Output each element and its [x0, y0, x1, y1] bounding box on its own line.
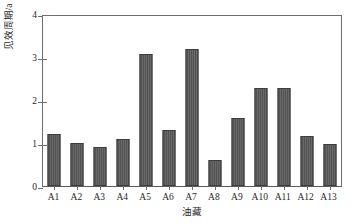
bar-slot [295, 16, 318, 186]
y-tick-label: 0 [32, 183, 37, 193]
bar [254, 88, 267, 186]
x-tick-label: A13 [320, 192, 336, 202]
x-tick-mark [54, 186, 55, 190]
x-tick-mark [261, 186, 262, 190]
bar-slot [112, 16, 135, 186]
x-tick-mark [100, 186, 101, 190]
x-tick-label: A6 [162, 192, 174, 202]
bar [163, 130, 176, 186]
x-tick-mark [77, 186, 78, 190]
bar-slot [272, 16, 295, 186]
bar-slot [203, 16, 226, 186]
bar [71, 143, 84, 186]
bar-slot [226, 16, 249, 186]
x-tick-mark [192, 186, 193, 190]
bar [300, 136, 313, 186]
x-tick-label: A4 [116, 192, 128, 202]
bar-slot [249, 16, 272, 186]
plot-area: 01234 [42, 15, 342, 187]
bar-slot [135, 16, 158, 186]
bars-layer [43, 16, 341, 186]
y-axis-title: 见效周期/a [2, 0, 16, 72]
bar [140, 54, 153, 186]
x-tick-label: A7 [185, 192, 197, 202]
bar [231, 118, 244, 186]
x-tick-label: A2 [71, 192, 83, 202]
bar-slot [89, 16, 112, 186]
bar-slot [181, 16, 204, 186]
bar-chart-figure: 见效周期/a 01234 A1A2A3A4A5A6A7A8A9A10A11A12… [0, 0, 355, 224]
y-tick-label: 4 [32, 11, 37, 21]
y-tick-label: 1 [32, 140, 37, 150]
x-tick-label: A8 [208, 192, 220, 202]
x-tick-mark [169, 186, 170, 190]
x-tick-label: A11 [275, 192, 291, 202]
bar [48, 134, 61, 186]
bar [277, 88, 290, 186]
x-tick-mark [284, 186, 285, 190]
bar-slot [158, 16, 181, 186]
x-tick-label: A1 [48, 192, 60, 202]
bar-slot [43, 16, 66, 186]
y-tick-mark [38, 188, 43, 189]
x-tick-label: A3 [93, 192, 105, 202]
x-axis-title: 油藏 [42, 206, 342, 218]
bar-slot [318, 16, 341, 186]
y-tick-label: 2 [32, 97, 37, 107]
x-tick-mark [215, 186, 216, 190]
bar [185, 49, 198, 186]
bar [94, 147, 107, 186]
bar [208, 160, 221, 186]
x-tick-mark [307, 186, 308, 190]
x-tick-mark [330, 186, 331, 190]
x-tick-label: A12 [297, 192, 313, 202]
x-tick-mark [146, 186, 147, 190]
x-tick-mark [238, 186, 239, 190]
x-tick-mark [123, 186, 124, 190]
bar-slot [66, 16, 89, 186]
x-tick-label: A9 [231, 192, 243, 202]
bar [323, 144, 336, 186]
bar [117, 139, 130, 186]
x-tick-label: A5 [139, 192, 151, 202]
x-tick-label: A10 [252, 192, 268, 202]
y-tick-label: 3 [32, 54, 37, 64]
